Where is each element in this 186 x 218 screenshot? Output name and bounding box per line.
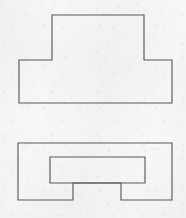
drawing-page [0, 0, 186, 218]
figure-top-outline [19, 15, 172, 103]
figure-bottom-inner-outline [50, 157, 145, 183]
figure-bottom-outer-outline [18, 143, 172, 200]
line-drawing-canvas [0, 0, 186, 218]
